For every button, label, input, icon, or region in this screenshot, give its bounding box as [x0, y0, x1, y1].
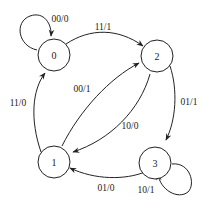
state-diagram: 0 1 2 3 00/0 11/1 11/0 00/1 10/0 01/1 01… [0, 0, 204, 204]
edge-3-1 [70, 168, 145, 178]
edge-label-1-2: 00/1 [74, 84, 91, 94]
state-3-label: 3 [153, 158, 158, 169]
state-3: 3 [139, 147, 171, 179]
edge-label-1-0: 11/0 [10, 98, 27, 108]
edge-2-3 [166, 66, 175, 140]
state-2-label: 2 [155, 51, 160, 62]
edge-label-2-3: 01/1 [181, 97, 198, 107]
edge-label-0-0: 00/0 [52, 14, 69, 24]
edge-1-2 [62, 63, 139, 146]
state-1: 1 [38, 146, 70, 178]
edge-label-2-1: 10/0 [122, 121, 139, 131]
edge-label-0-2: 11/1 [95, 22, 112, 32]
edge-label-3-1: 01/0 [98, 183, 115, 193]
state-0-label: 0 [52, 50, 57, 61]
state-1-label: 1 [52, 157, 57, 168]
state-0: 0 [38, 39, 70, 71]
edge-0-2 [66, 32, 143, 46]
edge-1-0 [34, 73, 45, 152]
edge-label-3-3: 10/1 [138, 185, 155, 195]
state-2: 2 [141, 40, 173, 72]
